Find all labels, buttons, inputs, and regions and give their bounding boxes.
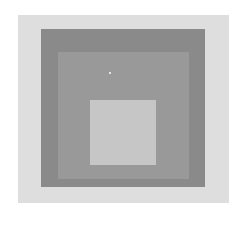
inner-light-square [90,100,156,165]
highlight-spot [109,72,111,74]
